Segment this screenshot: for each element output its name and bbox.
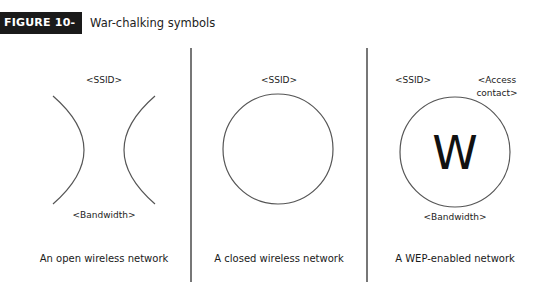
access-contact-line1: <Access	[476, 74, 517, 87]
wep-access-contact-label: <Access contact>	[476, 74, 517, 100]
open-ssid-label: <SSID>	[86, 75, 122, 85]
left-arc	[53, 96, 84, 204]
wep-ssid-label: <SSID>	[395, 75, 431, 85]
right-arc	[124, 96, 155, 204]
closed-network-caption: A closed wireless network	[214, 253, 343, 264]
closed-ssid-label: <SSID>	[261, 75, 297, 85]
wep-w-mark: W	[432, 126, 477, 180]
closed-network-symbol-icon	[223, 94, 333, 204]
wep-network-caption: A WEP-enabled network	[395, 253, 515, 264]
open-network-symbol-icon	[53, 96, 155, 204]
wep-bandwidth-label: <Bandwidth>	[424, 212, 487, 222]
open-network-caption: An open wireless network	[40, 253, 169, 264]
access-contact-line2: contact>	[476, 87, 517, 100]
warchalk-symbols: W	[0, 0, 539, 286]
open-bandwidth-label: <Bandwidth>	[73, 210, 136, 220]
wep-network-symbol-icon: W	[400, 97, 510, 207]
